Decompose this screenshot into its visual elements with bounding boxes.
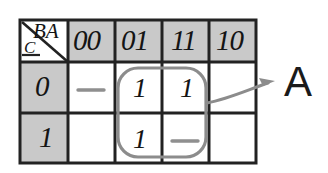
column-header-10: 10 <box>216 26 243 55</box>
corner-column-vars-label: BA <box>33 21 59 42</box>
cell-r0-c11: 1 <box>180 74 194 102</box>
group-label-a: A <box>284 61 312 103</box>
corner-row-var-label: C <box>24 39 35 56</box>
column-header-01: 01 <box>121 26 148 55</box>
cell-r1-c01: 1 <box>133 125 147 153</box>
column-header-11: 11 <box>171 26 196 55</box>
cell-r0-c01: 1 <box>133 74 147 102</box>
column-header-00: 00 <box>73 26 100 55</box>
karnaugh-map-figure: BA C 00 01 11 10 0 1 1 1 1 A <box>0 0 328 173</box>
row-header-1: 1 <box>39 123 54 152</box>
row-header-0: 0 <box>35 72 50 101</box>
